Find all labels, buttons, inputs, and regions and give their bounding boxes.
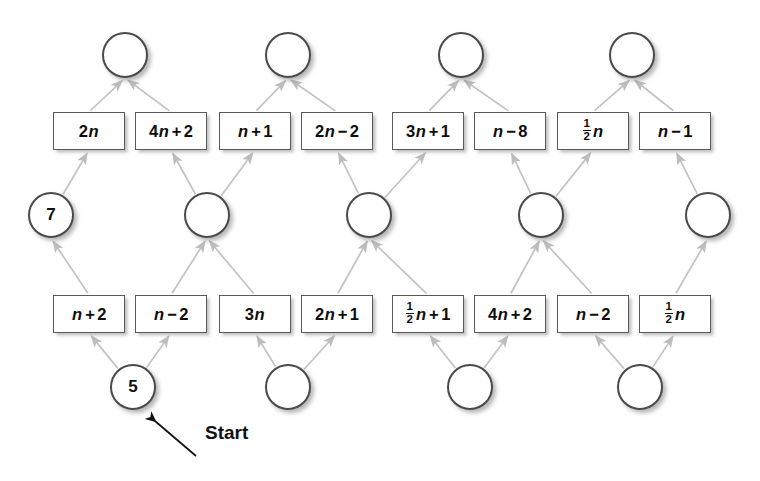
bottom-circle-3[interactable] [447,364,493,410]
top-box-6[interactable]: n−8 [474,112,546,150]
start-label: Start [205,422,248,444]
top-box-2[interactable]: 4n+2 [135,112,207,150]
bottom-box-1-label: n+2 [72,306,107,323]
middle-circle-4[interactable] [518,192,564,238]
bottom-box-4[interactable]: 2n+1 [301,295,373,333]
top-box-4-label: 2n−2 [315,123,359,140]
top-circle-1[interactable] [102,32,148,78]
top-box-7-label: 12n [583,119,604,143]
top-box-6-label: n−8 [493,123,528,140]
top-circle-3[interactable] [438,32,484,78]
top-circle-2[interactable] [265,32,311,78]
top-box-3-label: n+1 [238,123,273,140]
bottom-box-3-label: 3n [245,306,265,323]
top-box-1[interactable]: 2n [53,112,125,150]
top-box-1-label: 2n [79,123,99,140]
middle-circle-5[interactable] [685,192,731,238]
top-box-8[interactable]: n−1 [639,112,711,150]
bottom-box-8-label: 12n [665,302,686,326]
bottom-box-1[interactable]: n+2 [53,295,125,333]
bottom-box-2-label: n−2 [154,306,189,323]
middle-circle-2[interactable] [184,192,230,238]
top-circle-4[interactable] [609,32,655,78]
middle-circle-1[interactable]: 7 [28,192,74,238]
bottom-box-3[interactable]: 3n [219,295,291,333]
bottom-box-8[interactable]: 12n [639,295,711,333]
bottom-circle-4[interactable] [617,364,663,410]
top-box-4[interactable]: 2n−2 [301,112,373,150]
top-box-3[interactable]: n+1 [219,112,291,150]
middle-circle-3[interactable] [346,192,392,238]
bottom-box-6-label: 4n+2 [488,306,532,323]
bottom-box-5[interactable]: 12n+1 [392,295,464,333]
top-box-8-label: n−1 [658,123,693,140]
top-box-5-label: 3n+1 [406,123,450,140]
bottom-box-2[interactable]: n−2 [135,295,207,333]
bottom-box-4-label: 2n+1 [315,306,359,323]
bottom-box-7-label: n−2 [576,306,611,323]
top-box-7[interactable]: 12n [557,112,629,150]
bottom-box-7[interactable]: n−2 [557,295,629,333]
bottom-circle-1-start[interactable]: 5 [110,364,156,410]
bottom-box-6[interactable]: 4n+2 [474,295,546,333]
top-box-5[interactable]: 3n+1 [392,112,464,150]
bottom-circle-2[interactable] [265,364,311,410]
number-machine-diagram: 2n 4n+2 n+1 2n−2 3n+1 n−8 12n n−1 7 n+2 … [0,0,760,481]
top-box-2-label: 4n+2 [149,123,193,140]
bottom-box-5-label: 12n+1 [406,302,451,326]
